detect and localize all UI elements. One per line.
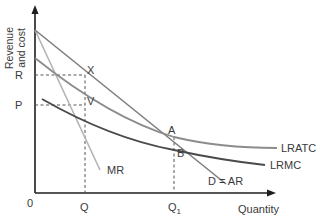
x-tick-Q: Q [80, 201, 89, 213]
lrmc-label: LRMC [270, 159, 301, 171]
x-axis-arrow-icon [267, 190, 276, 197]
y-tick-P: P [15, 99, 22, 111]
origin-label: 0 [27, 197, 33, 209]
y-tick-R: R [15, 69, 23, 81]
y-axis-label-line1: Revenue [3, 27, 15, 69]
point-B-label: B [177, 147, 184, 159]
x-tick-Q1-subscript: 1 [177, 207, 182, 216]
lratc-label: LRATC [281, 142, 316, 154]
point-X-label: X [87, 64, 95, 76]
guide-lines [35, 75, 174, 193]
y-axis-arrow-icon [32, 5, 39, 14]
demand-ar-label: D = AR [208, 175, 243, 187]
monopoly-cost-revenue-diagram: Revenue and cost R P X V A B MR D = AR L… [0, 0, 323, 224]
y-axis-label: Revenue and cost [3, 27, 27, 69]
lrmc-curve [42, 99, 265, 165]
x-tick-Q1: Q1 [168, 201, 182, 216]
x-axis-label: Quantity [238, 203, 279, 215]
demand-ar-curve [35, 30, 226, 184]
chart-svg: Revenue and cost R P X V A B MR D = AR L… [0, 0, 323, 224]
lratc-curve [35, 58, 277, 148]
point-V-label: V [87, 95, 95, 107]
point-A-label: A [168, 124, 176, 136]
mr-label: MR [107, 164, 124, 176]
y-axis-label-line2: and cost [15, 28, 27, 68]
